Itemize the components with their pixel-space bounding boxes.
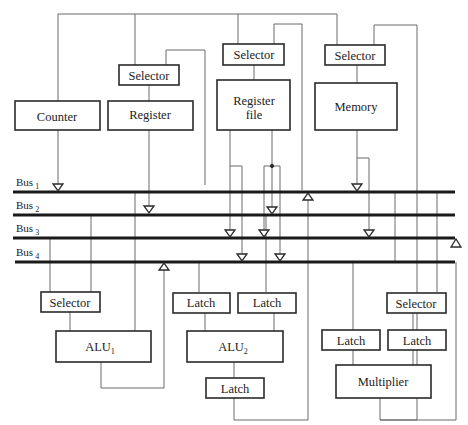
arrow-down-icon: [237, 254, 247, 261]
svg-text:Latch: Latch: [187, 296, 216, 310]
multiplier-selector-block: Selector: [387, 293, 446, 313]
arrow-down-icon: [259, 230, 269, 237]
buses: Bus1 Bus2 Bus3 Bus4: [13, 176, 455, 262]
svg-text:Latch: Latch: [337, 334, 366, 348]
svg-text:Latch: Latch: [403, 334, 432, 348]
svg-text:Register: Register: [233, 94, 275, 108]
arrow-down-icon: [144, 206, 154, 213]
arrow-down-icon: [267, 207, 277, 214]
svg-text:Counter: Counter: [37, 110, 78, 124]
svg-text:file: file: [246, 108, 263, 122]
arrow-down-icon: [53, 184, 63, 191]
alu2-latch-a-block: Latch: [173, 293, 230, 313]
svg-text:Multiplier: Multiplier: [358, 375, 410, 389]
svg-text:Selector: Selector: [396, 297, 438, 311]
multiplier-latch-b-block: Latch: [388, 330, 446, 350]
memory-block: Memory: [315, 83, 397, 130]
register-selector-block: Selector: [119, 65, 179, 85]
arrow-down-icon: [275, 254, 285, 261]
regfile-selector-block: Selector: [223, 44, 284, 65]
arrow-up-icon: [159, 263, 169, 270]
bus-3-label: Bus3: [16, 222, 39, 237]
arrow-down-icon: [364, 230, 374, 237]
multiplier-latch-a-block: Latch: [322, 330, 380, 350]
bus-4-label: Bus4: [16, 246, 39, 261]
svg-text:Selector: Selector: [234, 48, 276, 62]
arrow-down-icon: [352, 184, 362, 191]
multiplier-block: Multiplier: [336, 365, 431, 398]
alu1-block: ALU1: [56, 331, 151, 362]
svg-text:Latch: Latch: [221, 382, 250, 396]
arrow-down-icon: [225, 230, 235, 237]
register-file-block: Register file: [217, 80, 290, 130]
memory-selector-block: Selector: [325, 45, 385, 65]
svg-text:Memory: Memory: [334, 100, 378, 114]
alu2-block: ALU2: [187, 331, 283, 362]
register-block: Register: [108, 101, 193, 130]
svg-text:Selector: Selector: [335, 49, 377, 63]
svg-text:ALU2: ALU2: [218, 340, 248, 356]
svg-text:ALU1: ALU1: [85, 340, 115, 356]
svg-text:Register: Register: [129, 108, 171, 122]
arrows: [53, 164, 461, 270]
svg-text:Selector: Selector: [129, 69, 171, 83]
bus-1-label: Bus1: [16, 176, 39, 191]
alu1-selector-block: Selector: [41, 292, 100, 312]
svg-text:Selector: Selector: [50, 296, 92, 310]
arrow-up-icon: [303, 193, 313, 200]
svg-text:Latch: Latch: [253, 296, 282, 310]
alu2-output-latch-block: Latch: [206, 378, 264, 398]
arrow-up-icon: [451, 239, 461, 247]
junction-dot: [270, 164, 274, 168]
datapath-diagram: Bus1 Bus2 Bus3 Bus4 Counter Selector Reg…: [0, 0, 468, 425]
counter-block: Counter: [15, 101, 100, 130]
bus-2-label: Bus2: [16, 199, 39, 214]
alu2-latch-b-block: Latch: [238, 293, 296, 313]
